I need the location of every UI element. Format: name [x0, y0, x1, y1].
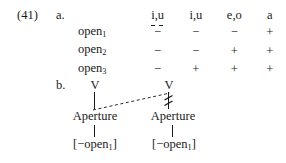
linguistics-example-figure: (41) a. i,u i,u e,o a open1 − − − +	[0, 0, 286, 163]
matrix-column-header-low-vowel: a	[254, 6, 286, 24]
association-line-left-aperture-feature	[94, 125, 95, 137]
glide-i-symbol: i	[151, 8, 154, 24]
tree-node-v-left: V	[86, 79, 104, 92]
matrix-cell: −	[215, 24, 254, 42]
part-a-label: a.	[56, 9, 65, 22]
matrix-row-label-open1: open1	[78, 24, 139, 42]
autosegmental-tree-diagram: V V Aperture Aperture [−open1] [−open1]	[0, 70, 286, 163]
matrix-row-label-open2: open2	[78, 42, 139, 60]
example-number: (41)	[17, 9, 38, 22]
matrix-header-row: i,u i,u e,o a	[78, 6, 286, 24]
table-row: open1 − − − +	[78, 24, 286, 42]
feature-text: [−open	[152, 137, 188, 151]
matrix-column-header-glides: i,u	[139, 6, 177, 24]
matrix-cell: +	[254, 42, 286, 60]
tree-node-v-right: V	[160, 79, 178, 92]
matrix-column-header-high-vowels: i,u	[177, 6, 215, 24]
table-row: open2 − − + +	[78, 42, 286, 60]
feature-bracket-close: ]	[113, 137, 117, 151]
feature-bracket-close: ]	[192, 137, 196, 151]
matrix-cell: −	[139, 24, 177, 42]
glide-u-symbol: u	[158, 8, 164, 24]
row-label-text: open	[78, 24, 102, 38]
matrix-cell: +	[254, 24, 286, 42]
association-line-left-v-aperture	[94, 92, 95, 109]
tree-feature-right: [−open1]	[137, 138, 211, 152]
matrix-cell: +	[215, 42, 254, 60]
matrix-cell: −	[177, 24, 215, 42]
row-label-text: open	[78, 42, 102, 56]
tree-node-aperture-left: Aperture	[62, 110, 128, 123]
association-line-right-aperture-feature	[172, 125, 173, 137]
tree-node-aperture-right: Aperture	[140, 110, 206, 123]
delink-double-strike-icon	[163, 94, 174, 107]
matrix-column-header-mid-vowels: e,o	[215, 6, 254, 24]
row-label-subscript: 1	[102, 30, 106, 39]
tree-feature-left: [−open1]	[58, 138, 132, 152]
feature-text: [−open	[73, 137, 109, 151]
row-label-subscript: 2	[102, 48, 106, 57]
matrix-cell: −	[177, 42, 215, 60]
feature-matrix: i,u i,u e,o a open1 − − − + open2 − − + …	[78, 6, 286, 79]
matrix-corner-cell	[78, 6, 139, 24]
matrix-cell: −	[139, 42, 177, 60]
